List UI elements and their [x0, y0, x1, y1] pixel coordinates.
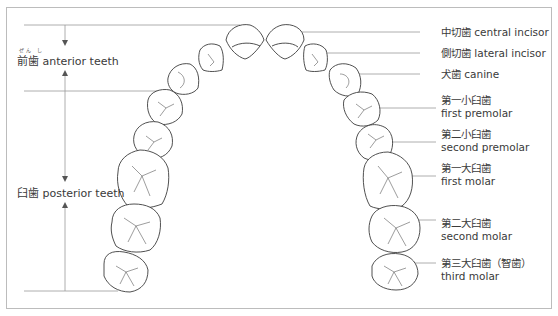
- posterior-teeth-en: posterior teeth: [43, 187, 125, 200]
- label-canine: 犬歯 canine: [441, 68, 499, 81]
- label-third-molar: 第三大臼歯（智歯） third molar: [441, 257, 531, 283]
- teeth: [104, 25, 420, 292]
- posterior-teeth-label: 臼歯 posterior teeth: [17, 184, 124, 200]
- label-first-molar: 第一大臼歯 first molar: [441, 162, 495, 188]
- label-lateral-incisor: 側切歯 lateral incisor: [441, 47, 546, 60]
- label-second-premolar: 第二小臼歯 second premolar: [441, 128, 529, 154]
- anterior-teeth-en: anterior teeth: [43, 55, 119, 68]
- anterior-teeth-jp: 前歯: [17, 55, 39, 68]
- label-central-incisor: 中切歯 central incisor: [441, 26, 549, 39]
- label-second-molar: 第二大臼歯 second molar: [441, 217, 512, 243]
- anterior-teeth-label: 前歯 anterior teeth: [17, 52, 119, 68]
- label-first-premolar: 第一小臼歯 first premolar: [441, 94, 512, 120]
- posterior-teeth-jp: 臼歯: [17, 187, 39, 200]
